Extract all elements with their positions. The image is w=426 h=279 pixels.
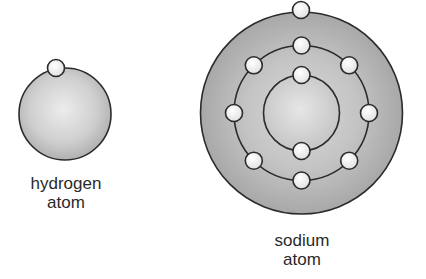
hydrogen-label-line2: atom	[10, 193, 122, 212]
sodium-atom	[201, 2, 403, 215]
hydrogen-atom	[19, 60, 111, 161]
electron	[293, 143, 310, 160]
hydrogen-label-line1: hydrogen	[10, 174, 122, 193]
sodium-label-line1: sodium	[246, 231, 358, 250]
electron	[341, 152, 358, 169]
electron	[293, 37, 310, 54]
electron	[293, 172, 310, 189]
sodium-inner-shell	[264, 75, 340, 151]
electron	[226, 105, 243, 122]
hydrogen-label: hydrogen atom	[10, 174, 122, 212]
electron	[361, 105, 378, 122]
electron	[293, 2, 310, 19]
electron	[293, 67, 310, 84]
atom-diagram	[0, 0, 426, 279]
sodium-label: sodium atom	[246, 231, 358, 269]
sodium-label-line2: atom	[246, 250, 358, 269]
hydrogen-body	[19, 68, 111, 160]
electron	[245, 152, 262, 169]
electron	[341, 57, 358, 74]
hydrogen-electron	[48, 60, 65, 77]
electron	[245, 57, 262, 74]
